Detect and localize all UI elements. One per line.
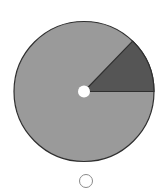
center-hole	[78, 86, 90, 98]
radio-button[interactable]	[80, 175, 93, 188]
pie-diagram	[0, 0, 167, 192]
